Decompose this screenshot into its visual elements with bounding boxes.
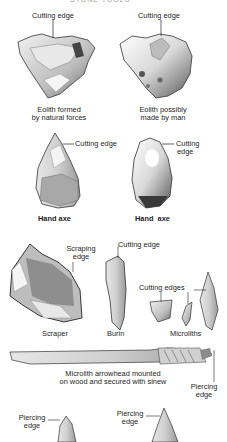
hand-axe-left-pointer-label: Cutting edge — [75, 140, 117, 148]
arrow-caption: Microlith arrowhead mounted on wood and … — [48, 370, 178, 386]
hand-axe-right-pointer-label: Cutting edge — [176, 140, 199, 156]
point-left-stone — [48, 416, 76, 442]
burin-stone — [106, 246, 126, 330]
point-right-stone — [146, 408, 178, 442]
eolith-natural-caption: Eolith formed by natural forces — [20, 106, 98, 122]
scraper-caption: Scraper — [42, 330, 68, 338]
hand-axe-left-stone — [36, 133, 80, 208]
hand-axe-right-stone — [132, 138, 174, 208]
eolith-man-stone — [120, 20, 192, 98]
burin-caption: Burin — [107, 330, 124, 338]
point-right-pointer-label: Piercing edge — [114, 410, 146, 426]
burin-pointer-label: Cutting edge — [118, 241, 160, 249]
scraper-pointer-label: Scraping edge — [63, 245, 99, 261]
eolith-natural-stone — [18, 20, 95, 98]
microliths-caption: Microliths — [170, 330, 201, 338]
arrow-pointer-label: Piercing edge — [184, 383, 224, 399]
hand-axe-left-caption: Hand axe — [38, 215, 71, 223]
eolith-man-pointer-label: Cutting edge — [138, 12, 180, 20]
eolith-man-caption: Eolith possibly made by man — [130, 106, 196, 122]
hand-axe-right-caption: Hand axe — [135, 215, 170, 223]
microliths-pointer-label: Cutting edges — [139, 284, 185, 292]
microliths-stones — [150, 272, 218, 330]
point-left-pointer-label: Piercing edge — [16, 414, 48, 430]
eolith-natural-pointer-label: Cutting edge — [32, 12, 74, 20]
